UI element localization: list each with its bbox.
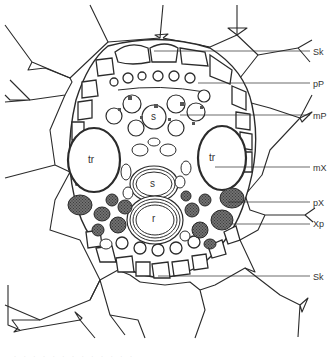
label-tr-left: tr xyxy=(88,155,94,165)
label-s-mid: s xyxy=(150,179,155,189)
label-s-top: s xyxy=(151,112,156,122)
vascular-bundle-diagram xyxy=(0,0,331,364)
figure-caption-cropped: · · · · · · · · · · · · · xyxy=(14,353,135,359)
label-mx: mX xyxy=(313,163,327,173)
label-r: r xyxy=(152,214,155,224)
label-xp: Xp xyxy=(313,219,324,229)
label-sk-top: Sk xyxy=(313,47,324,57)
trachea-right xyxy=(198,126,246,190)
label-mp: mP xyxy=(313,111,327,121)
label-tr-right: tr xyxy=(209,153,215,163)
label-pp: pP xyxy=(313,79,324,89)
label-sk-bottom: Sk xyxy=(313,272,324,282)
label-px: pX xyxy=(313,198,324,208)
